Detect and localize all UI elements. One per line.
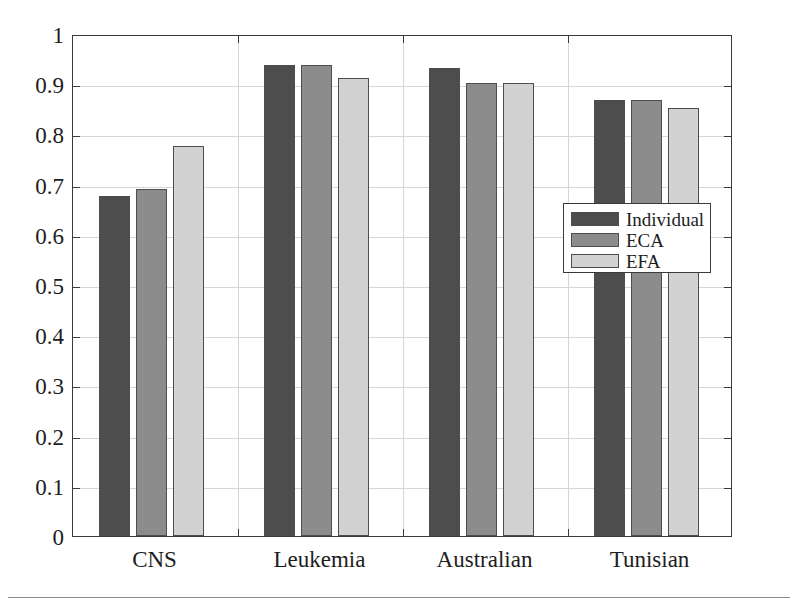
y-tick-label: 0.9 <box>2 74 64 97</box>
y-tick-mark <box>73 488 80 489</box>
y-tick-mark <box>73 237 80 238</box>
y-tick-label: 0.4 <box>2 325 64 348</box>
y-tick-mark <box>73 86 80 87</box>
bar <box>136 189 168 536</box>
bar <box>264 65 296 536</box>
x-tick-label: Australian <box>405 548 565 571</box>
figure: 00.10.20.30.40.50.60.70.80.91 CNSLeukemi… <box>0 0 798 604</box>
y-tick-mark <box>73 136 80 137</box>
y-tick-label: 0.8 <box>2 124 64 147</box>
bar <box>429 68 461 536</box>
legend-label-eca: ECA <box>626 231 664 250</box>
y-tick-label: 0.6 <box>2 225 64 248</box>
y-tick-label: 0.2 <box>2 426 64 449</box>
legend-label-efa: EFA <box>626 252 660 271</box>
x-tick-mark-top <box>403 36 404 43</box>
bar <box>503 83 535 536</box>
plot-area <box>72 35 732 537</box>
y-tick-label: 0.7 <box>2 175 64 198</box>
y-tick-mark-right <box>724 187 731 188</box>
y-tick-mark-right <box>724 136 731 137</box>
y-tick-label: 0.1 <box>2 476 64 499</box>
y-tick-mark-right <box>724 337 731 338</box>
bar <box>173 146 205 536</box>
legend-entry: Individual <box>571 209 710 229</box>
legend-swatch-efa <box>571 254 619 268</box>
gridline-y <box>73 86 731 87</box>
bar <box>631 100 663 536</box>
y-tick-mark-right <box>724 287 731 288</box>
x-tick-label: Leukemia <box>240 548 400 571</box>
x-tick-mark-top <box>568 36 569 43</box>
legend-swatch-eca <box>571 233 619 247</box>
gridline-x <box>238 36 239 536</box>
y-tick-mark-right <box>724 237 731 238</box>
gridline-x <box>403 36 404 536</box>
y-tick-mark <box>73 287 80 288</box>
y-tick-label: 0 <box>2 526 64 549</box>
y-tick-mark <box>73 387 80 388</box>
y-tick-label: 0.3 <box>2 375 64 398</box>
y-tick-mark-right <box>724 438 731 439</box>
bar <box>466 83 498 536</box>
x-tick-label: CNS <box>75 548 235 571</box>
y-tick-label: 0.5 <box>2 275 64 298</box>
legend-entry: ECA <box>571 230 710 250</box>
bar <box>668 108 700 536</box>
x-tick-mark-bottom <box>238 529 239 536</box>
bar <box>301 65 333 536</box>
legend-label-individual: Individual <box>626 210 704 229</box>
y-tick-mark-right <box>724 488 731 489</box>
gridline-x <box>568 36 569 536</box>
y-tick-label: 1 <box>2 24 64 47</box>
legend-entry: EFA <box>571 251 710 271</box>
y-tick-mark <box>73 438 80 439</box>
y-tick-mark-right <box>724 86 731 87</box>
legend-swatch-individual <box>571 212 619 226</box>
x-tick-mark-bottom <box>568 529 569 536</box>
x-tick-mark-bottom <box>403 529 404 536</box>
y-tick-mark-right <box>724 387 731 388</box>
x-tick-mark-top <box>238 36 239 43</box>
legend: Individual ECA EFA <box>563 203 711 273</box>
y-tick-mark <box>73 337 80 338</box>
bar <box>338 78 370 536</box>
bar <box>594 100 626 536</box>
x-tick-label: Tunisian <box>570 548 730 571</box>
y-tick-mark <box>73 187 80 188</box>
page-bottom-rule <box>8 597 790 598</box>
bar <box>99 196 131 536</box>
